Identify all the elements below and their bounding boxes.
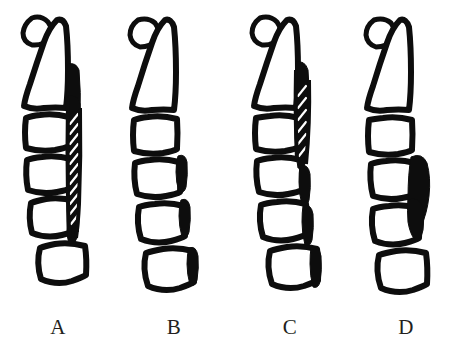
vertebra-b-4 bbox=[138, 203, 185, 242]
spine-figure: A B bbox=[0, 0, 464, 348]
panel-d-illustration bbox=[348, 0, 464, 348]
panel-b-label: B bbox=[116, 317, 232, 338]
lesion-d-localized-mass bbox=[408, 155, 430, 240]
vertebra-c-4 bbox=[260, 201, 307, 240]
lesion-a-continuous-band bbox=[67, 64, 81, 244]
vertebra-a-2 bbox=[25, 114, 70, 150]
panel-c-illustration bbox=[232, 0, 348, 348]
vertebra-d-5 bbox=[377, 250, 427, 292]
vertebra-a-5 bbox=[38, 243, 86, 283]
panel-b: B bbox=[116, 0, 232, 348]
panel-b-illustration bbox=[116, 0, 232, 348]
panel-c-label: C bbox=[232, 317, 348, 338]
panel-a-label: A bbox=[0, 317, 116, 338]
vertebra-c-2 bbox=[255, 115, 300, 151]
vertebra-d-2 bbox=[368, 117, 413, 154]
vertebra-a-3 bbox=[26, 156, 71, 193]
vertebra-c-3 bbox=[256, 157, 302, 195]
panel-a-illustration bbox=[0, 0, 116, 348]
panel-d-label: D bbox=[348, 317, 464, 338]
vertebra-b-3 bbox=[134, 159, 180, 197]
panel-c: C bbox=[232, 0, 348, 348]
panel-d: D bbox=[348, 0, 464, 348]
panel-a: A bbox=[0, 0, 116, 348]
vertebra-b-2 bbox=[133, 116, 178, 153]
